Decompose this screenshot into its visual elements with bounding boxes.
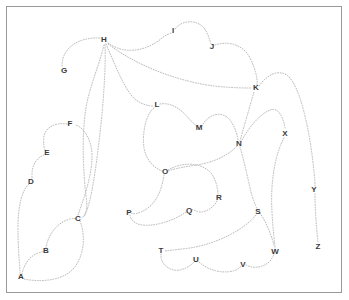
edge-A-B — [22, 251, 44, 274]
edge-B-C — [46, 219, 76, 248]
node-label-c: C — [75, 215, 81, 223]
edge-C-A — [24, 221, 83, 281]
node-label-k: K — [253, 84, 259, 92]
node-label-l: L — [155, 101, 160, 109]
node-label-j: J — [210, 43, 214, 51]
edge-M-N — [202, 114, 238, 141]
edge-S-T — [164, 215, 256, 251]
edge-G-H — [62, 38, 100, 66]
node-label-r: R — [216, 194, 222, 202]
node-label-w: W — [271, 248, 279, 256]
node-label-b: B — [43, 247, 49, 255]
edge-U-V — [199, 262, 241, 272]
edge-Q-P — [130, 212, 186, 225]
node-label-d: D — [28, 178, 34, 186]
edge-J-K — [215, 43, 257, 85]
node-label-t: T — [159, 247, 164, 255]
edge-R-Q — [191, 201, 217, 212]
edge-L-O — [143, 108, 162, 171]
node-label-m: M — [196, 124, 203, 132]
curve-network — [0, 0, 349, 300]
node-label-y: Y — [311, 186, 316, 194]
edge-V-W — [246, 254, 274, 267]
node-label-i: I — [172, 27, 174, 35]
node-label-x: X — [282, 130, 287, 138]
node-label-q: Q — [186, 207, 192, 215]
node-label-e: E — [44, 149, 49, 157]
edge-T-U — [161, 254, 194, 270]
node-label-h: H — [101, 36, 107, 44]
edge-H-I — [108, 33, 172, 50]
edge-D-A — [18, 184, 29, 273]
node-label-g: G — [61, 67, 67, 75]
node-label-u: U — [193, 256, 199, 264]
node-label-f: F — [68, 120, 73, 128]
node-label-n: N — [236, 140, 242, 148]
node-label-a: A — [18, 273, 24, 281]
edge-N-O — [168, 146, 237, 171]
node-label-p: P — [126, 209, 131, 217]
edge-N-K — [240, 92, 254, 141]
edge-N-X — [241, 109, 285, 142]
edge-H-L — [106, 44, 153, 106]
edge-L-M — [160, 104, 197, 127]
node-label-s: S — [255, 208, 260, 216]
edge-group — [18, 22, 318, 281]
edge-F-E — [44, 124, 67, 150]
edge-I-J — [175, 22, 211, 44]
edge-X-W — [272, 138, 284, 248]
diagram-canvas: ABCDEFGHIJKLMNOPQRSTUVWXYZ — [0, 0, 349, 300]
edge-O-R — [168, 164, 218, 194]
edge-H-C — [84, 45, 105, 217]
node-label-z: Z — [316, 243, 321, 251]
edge-N-S — [240, 147, 257, 209]
edge-Y-Z — [315, 194, 318, 243]
node-label-o: O — [162, 168, 168, 176]
edge-E-D — [32, 155, 44, 179]
node-label-v: V — [240, 261, 245, 269]
edge-O-P — [131, 175, 164, 214]
